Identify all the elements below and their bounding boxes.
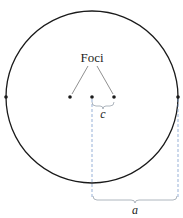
focus-right-point <box>112 95 116 99</box>
a-label: a <box>132 203 138 217</box>
foci-label: Foci <box>80 50 104 65</box>
center-point <box>90 95 94 99</box>
brace-a <box>93 196 177 203</box>
left-vertex-point <box>4 95 8 99</box>
focus-left-point <box>68 95 72 99</box>
right-vertex-point <box>176 95 180 99</box>
c-label: c <box>100 107 106 121</box>
leader-line-right <box>97 66 113 94</box>
ellipse-foci-diagram: Foci c a <box>0 0 183 218</box>
leader-line-left <box>72 66 88 94</box>
